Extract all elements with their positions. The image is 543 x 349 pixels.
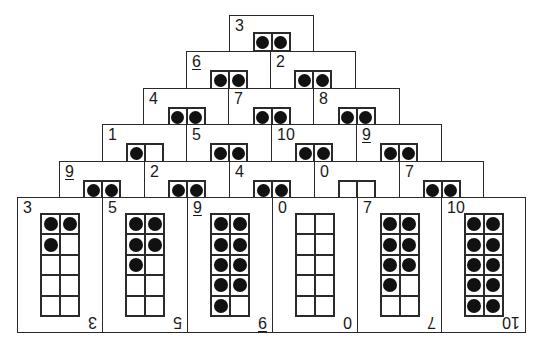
ten-frame-card[interactable]: 99 (187, 197, 273, 333)
dot-icon (87, 184, 100, 197)
frame-cell (400, 234, 419, 254)
dot-icon (341, 111, 354, 124)
dot-icon (402, 238, 416, 252)
dot-icon (317, 147, 330, 160)
number-card[interactable]: 5 (186, 124, 272, 163)
ten-frame-card[interactable]: 33 (17, 197, 103, 333)
frame-cell (465, 296, 484, 316)
frame-cell (145, 296, 164, 316)
frame-cell (315, 296, 334, 316)
ten-frame-card[interactable]: 1010 (441, 197, 526, 333)
dot-icon (214, 217, 228, 231)
card-number: 10 (447, 199, 465, 217)
dot-icon (232, 147, 245, 160)
frame-cell (313, 71, 331, 89)
card-number-rotated: 7 (427, 313, 436, 331)
number-card[interactable]: 10 (271, 124, 357, 163)
ten-frame (40, 213, 80, 317)
frame-cell (484, 234, 503, 254)
frame-cell (381, 255, 400, 275)
number-card[interactable]: 1 (102, 124, 188, 163)
dot-icon (257, 184, 270, 197)
dot-icon (130, 147, 143, 160)
number-card[interactable]: 4 (143, 88, 230, 127)
frame-cell (272, 33, 290, 51)
frame-cell (400, 296, 419, 316)
frame-cell (381, 144, 399, 162)
dot-icon (233, 238, 247, 252)
frame-cell (126, 296, 145, 316)
dot-icon (486, 278, 500, 292)
frame-cell (465, 255, 484, 275)
frame-cell (211, 214, 230, 234)
number-card[interactable]: 9 (59, 161, 145, 200)
number-card[interactable]: 2 (144, 161, 230, 200)
number-card[interactable]: 9 (356, 124, 442, 163)
dot-icon (486, 238, 500, 252)
card-number-rotated: 9 (258, 313, 267, 331)
frame-cell (41, 275, 60, 295)
frame-cell (484, 275, 503, 295)
frame-cell (60, 234, 79, 254)
frame-cell (381, 214, 400, 234)
dot-icon (486, 258, 500, 272)
frame-cell (315, 234, 334, 254)
frame-cell (41, 296, 60, 316)
card-number: 7 (363, 199, 372, 217)
dot-icon (298, 74, 311, 87)
frame-cell (381, 296, 400, 316)
dot-icon (467, 278, 481, 292)
ten-frame-card[interactable]: 00 (272, 197, 358, 333)
card-number: 0 (278, 199, 287, 217)
number-card[interactable]: 6 (186, 51, 272, 90)
frame-cell (211, 234, 230, 254)
frame-cell (145, 214, 164, 234)
dot-icon (256, 111, 269, 124)
dot-icon (316, 74, 329, 87)
dot-icon (359, 111, 372, 124)
frame-cell (314, 144, 332, 162)
frame-cell (315, 275, 334, 295)
card-number: 9 (193, 199, 202, 217)
frame-cell (211, 144, 229, 162)
dot-icon (214, 238, 228, 252)
dot-icon (383, 258, 397, 272)
card-number: 3 (235, 17, 244, 35)
number-card[interactable]: 2 (270, 51, 356, 90)
frame-cell (229, 144, 247, 162)
frame-cell (296, 296, 315, 316)
dot-icon (383, 217, 397, 231)
two-frame (253, 32, 291, 52)
number-card[interactable]: 3 (229, 15, 314, 52)
number-card[interactable]: 0 (314, 161, 400, 200)
frame-cell (41, 214, 60, 234)
dot-icon (384, 147, 397, 160)
number-card[interactable]: 4 (229, 161, 315, 200)
number-card[interactable]: 7 (228, 88, 315, 127)
frame-cell (296, 275, 315, 295)
number-card[interactable]: 8 (313, 88, 400, 127)
frame-cell (41, 255, 60, 275)
dot-icon (467, 238, 481, 252)
ten-frame-card[interactable]: 55 (102, 197, 188, 333)
dot-icon (105, 184, 118, 197)
dot-icon (214, 258, 228, 272)
frame-cell (315, 214, 334, 234)
dot-icon (402, 147, 415, 160)
ten-frame-card[interactable]: 77 (357, 197, 442, 333)
frame-cell (484, 255, 503, 275)
frame-cell (296, 214, 315, 234)
frame-cell (315, 255, 334, 275)
dot-icon (190, 184, 203, 197)
dot-icon (256, 36, 269, 49)
number-card[interactable]: 7 (399, 161, 484, 200)
frame-cell (211, 275, 230, 295)
frame-cell (296, 255, 315, 275)
frame-cell (126, 234, 145, 254)
two-frame (126, 143, 164, 163)
dot-icon (214, 278, 228, 292)
dot-icon (444, 184, 457, 197)
card-number-rotated: 10 (502, 313, 520, 331)
dot-icon (129, 258, 143, 272)
two-frame (294, 70, 332, 90)
